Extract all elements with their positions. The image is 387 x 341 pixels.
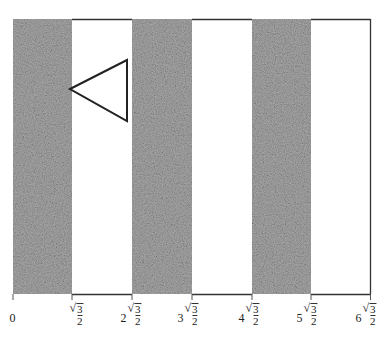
axis-label-3: 3 √ 3 2 <box>177 303 198 327</box>
axis-label-4: 4 √ 3 2 <box>238 303 259 327</box>
triangle <box>70 60 127 121</box>
axis-label-1: √ 3 2 <box>68 303 83 327</box>
axis-label-2: 2 √ 3 2 <box>120 303 141 327</box>
shaded-band-3 <box>252 19 311 294</box>
axis-label-6: 6 √ 3 2 <box>355 303 376 327</box>
sqrt-fraction: √ 3 2 <box>303 303 317 327</box>
sqrt-fraction: √ 3 2 <box>184 303 198 327</box>
strip-diagram <box>0 0 387 341</box>
shaded-band-2 <box>132 19 192 294</box>
strip-border <box>72 19 371 295</box>
shaded-band-1 <box>13 19 72 294</box>
sqrt-fraction: √ 3 2 <box>245 303 259 327</box>
sqrt-fraction: √ 3 2 <box>362 303 376 327</box>
sqrt-fraction: √ 3 2 <box>69 303 83 327</box>
axis-label-0: 0 <box>10 303 17 324</box>
sqrt-fraction: √ 3 2 <box>127 303 141 327</box>
axis-label-5: 5 √ 3 2 <box>296 303 317 327</box>
shaded-bands <box>13 19 311 294</box>
